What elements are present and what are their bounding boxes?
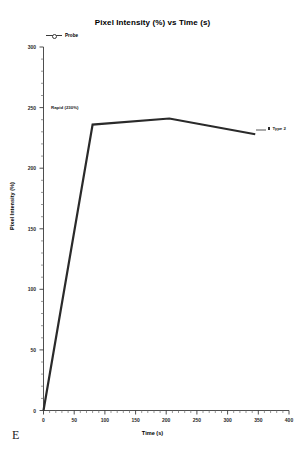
- y-tick-label: 0: [16, 408, 36, 414]
- type-2-annotation: Type 2: [268, 126, 286, 131]
- x-tick-label: 0: [42, 417, 45, 423]
- x-tick-label: 400: [285, 417, 293, 423]
- x-tick-label: 300: [223, 417, 231, 423]
- rapid-rise-annotation: Rapid (230%): [51, 105, 79, 110]
- y-tick-label: 50: [16, 347, 36, 353]
- y-tick-label: 300: [16, 44, 36, 50]
- y-tick-label: 100: [16, 286, 36, 292]
- type-2-marker-icon: [268, 127, 270, 129]
- y-axis-title: Pixel Intensity (%): [9, 182, 15, 230]
- chart-figure: Pixel Intensity (%) vs Time (s) Probe: [0, 0, 305, 454]
- type-2-annotation-label: Type 2: [272, 126, 286, 131]
- x-axis-title: Time (s): [0, 430, 305, 436]
- data-series-probe: [44, 118, 256, 410]
- x-tick-label: 350: [254, 417, 262, 423]
- x-tick-label: 150: [131, 417, 139, 423]
- panel-label: E: [12, 428, 19, 443]
- y-tick-label: 250: [16, 105, 36, 111]
- y-tick-label: 150: [16, 226, 36, 232]
- x-tick-label: 250: [193, 417, 201, 423]
- x-tick-label: 50: [71, 417, 77, 423]
- y-major-ticks: [40, 47, 44, 411]
- plot-area: [0, 0, 305, 454]
- x-tick-label: 200: [162, 417, 170, 423]
- y-tick-label: 200: [16, 165, 36, 171]
- x-tick-label: 100: [101, 417, 109, 423]
